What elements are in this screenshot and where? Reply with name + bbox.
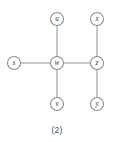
graph-figure: s u w v x z bbox=[0, 0, 115, 142]
node-v: v bbox=[51, 98, 64, 111]
node-u-label: u bbox=[55, 15, 59, 23]
figure-caption: (2) bbox=[52, 125, 63, 135]
node-z: z bbox=[91, 57, 104, 70]
graph-diagram: s u w v x z bbox=[0, 0, 115, 142]
node-u: u bbox=[51, 13, 64, 26]
node-group: s u w v x z bbox=[8, 13, 104, 111]
node-y: y bbox=[91, 98, 104, 111]
node-s: s bbox=[8, 57, 21, 70]
node-w: w bbox=[51, 57, 64, 70]
node-w-label: w bbox=[55, 59, 60, 67]
node-s-label: s bbox=[13, 59, 16, 67]
node-x: x bbox=[91, 13, 104, 26]
node-z-label: z bbox=[95, 59, 99, 67]
